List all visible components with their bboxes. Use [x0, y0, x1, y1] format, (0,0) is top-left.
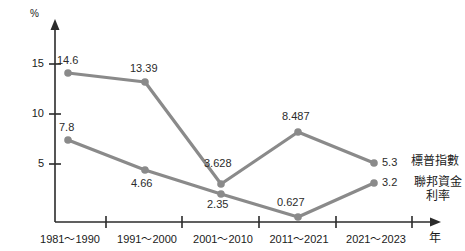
data-label-sp-1991-2000: 13.39 — [130, 62, 158, 74]
data-point — [64, 69, 72, 77]
data-point — [370, 159, 378, 167]
chart-container: % 年 15 10 5 1981～1990 1991～2000 2001～201… — [0, 0, 465, 251]
data-label-sp-1981-1990: 14.6 — [57, 54, 78, 66]
data-label-sp-2021-2023: 5.3 — [382, 156, 397, 168]
data-point — [294, 213, 302, 221]
data-label-sp-2011-2021: 8.487 — [282, 110, 310, 122]
data-label-ff-2001-2010: 2.35 — [207, 198, 228, 210]
data-point — [370, 179, 378, 187]
y-axis-unit-label: % — [30, 8, 39, 19]
data-point — [294, 128, 302, 136]
legend-item-fed-funds-rate-line2: 利率 — [411, 190, 465, 204]
x-axis — [55, 216, 441, 228]
data-label-ff-1981-1990: 7.8 — [59, 121, 74, 133]
data-point — [217, 190, 225, 198]
data-point — [217, 180, 225, 188]
data-label-sp-2001-2010: 3.628 — [204, 157, 232, 169]
data-point — [141, 166, 149, 174]
data-label-ff-2021-2023: 3.2 — [382, 176, 397, 188]
y-tick-label-10: 10 — [20, 107, 44, 119]
data-label-ff-1991-2000: 4.66 — [131, 177, 152, 189]
x-tick-label-2021-2023: 2021～2023 — [331, 230, 421, 246]
data-label-ff-2011-2021: 0.627 — [277, 196, 305, 208]
legend-item-fed-funds-rate-line1: 聯邦資金 — [411, 176, 465, 190]
legend-item-fed-funds-rate: 聯邦資金 利率 — [411, 176, 465, 204]
data-point — [141, 78, 149, 86]
y-tick-label-5: 5 — [20, 157, 44, 169]
legend-item-sp-index: 標普指數 — [411, 155, 459, 169]
x-axis-name-label: 年 — [429, 228, 441, 245]
data-point — [64, 136, 72, 144]
y-tick-label-15: 15 — [20, 57, 44, 69]
series-line-sp-index — [64, 69, 378, 188]
